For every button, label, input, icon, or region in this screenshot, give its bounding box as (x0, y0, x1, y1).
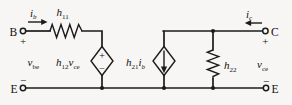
label-output-voltage: vce (257, 58, 268, 73)
source-polarity-minus: − (99, 63, 105, 74)
junction-dot-top-right (211, 29, 215, 33)
terminal-label-emitter-right: E (272, 83, 279, 95)
junction-dot-bottom-left (100, 86, 104, 90)
terminal-emitter-left-node[interactable] (20, 85, 25, 90)
terminal-collector-node[interactable] (263, 28, 268, 33)
label-collector-current: ic (246, 8, 253, 23)
resistor-h11-icon (50, 25, 82, 38)
polarity-plus-base: + (20, 35, 26, 47)
terminal-label-collector: C (271, 26, 279, 38)
circuit-diagram: B C E E + + − − + − ib ic h11 h22 (0, 0, 292, 105)
source-polarity-plus: + (99, 50, 105, 61)
wire-top-left-after-resistor (82, 31, 102, 47)
terminal-label-emitter-left: E (11, 83, 18, 95)
label-base-current: ib (30, 7, 37, 22)
polarity-plus-collector: + (262, 35, 268, 47)
junction-dot-bottom-mid (162, 86, 166, 90)
label-dependent-voltage-source: h12vce (56, 56, 80, 71)
polarity-minus-emitter-left: − (20, 74, 26, 86)
label-h11: h11 (57, 6, 70, 21)
label-dependent-current-source: h21ib (126, 56, 146, 71)
terminal-label-base: B (10, 26, 18, 38)
polarity-minus-emitter-right: − (263, 75, 269, 87)
base-current-arrowhead-icon (41, 19, 47, 25)
resistor-h22-icon (207, 50, 218, 79)
junction-dot-bottom-right (211, 86, 215, 90)
terminal-base-node[interactable] (20, 28, 25, 33)
label-h22: h22 (224, 59, 237, 74)
label-input-voltage: vbe (28, 56, 40, 71)
